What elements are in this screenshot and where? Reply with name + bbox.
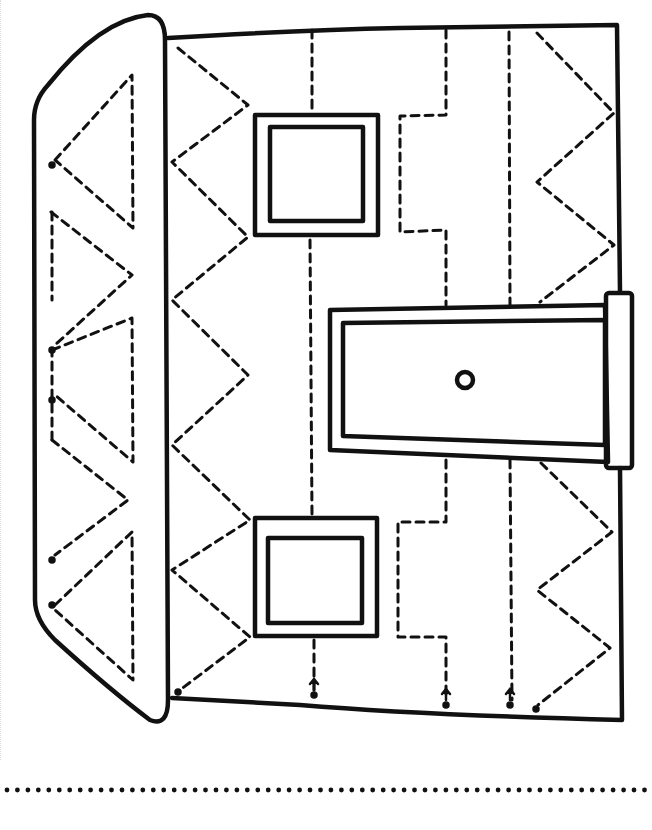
zigzag-path-right: [537, 33, 614, 302]
house-tracing-drawing: [0, 0, 652, 830]
door: [330, 293, 632, 468]
dotted-baseline: [5, 788, 647, 793]
house-wall: [168, 25, 622, 720]
window-top: [255, 115, 378, 235]
roof-tracing-path: [55, 75, 133, 228]
zigzag-path-left: [172, 48, 250, 690]
start-markers: [50, 163, 539, 712]
roof: [34, 15, 168, 721]
window-bottom: [255, 518, 377, 636]
step-path: [400, 30, 446, 305]
vertical-path-2: [509, 32, 510, 305]
door-knob: [457, 372, 473, 388]
